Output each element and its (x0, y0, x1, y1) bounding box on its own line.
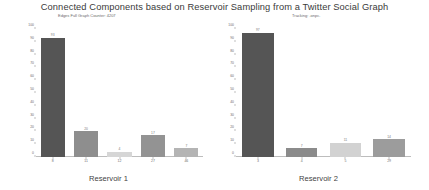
bar[interactable]: 7 (174, 148, 198, 157)
x-axis-tick-label: 11 (84, 159, 88, 163)
bar-slot: 2011 (69, 29, 102, 157)
bar-value-label: 11 (344, 138, 347, 142)
bar-group-left: 93820114121727746 (36, 29, 203, 157)
x-axis-tick-label: 5 (344, 159, 346, 163)
bar-slot: 1429 (367, 29, 411, 157)
bar-slot: 938 (36, 29, 69, 157)
bar-value-label: 7 (301, 144, 303, 148)
y-axis-tick-label: 20 (30, 125, 34, 129)
y-axis-tick-label: 10 (30, 138, 34, 142)
bar-value-label: 20 (84, 127, 88, 131)
bar-value-label: 4 (119, 147, 121, 151)
bar-value-label: 17 (151, 131, 155, 135)
x-axis-tick-label: 27 (151, 159, 155, 163)
x-axis-tick-label: 3 (257, 159, 259, 163)
bar-slot: 412 (103, 29, 136, 157)
y-axis-tick-label: 80 (230, 49, 234, 53)
bar-slot: 74 (280, 29, 324, 157)
y-axis-tick-label: 50 (30, 87, 34, 91)
x-axis-tick-label: 8 (52, 159, 54, 163)
y-axis-tick-label: 30 (30, 113, 34, 117)
y-axis-tick-label: 80 (30, 49, 34, 53)
x-axis-label-right: Reservoir 2 (214, 174, 423, 183)
y-axis-tick-label: 0 (32, 151, 34, 155)
y-axis-tick-label: 90 (30, 36, 34, 40)
x-axis-tick-label: 4 (301, 159, 303, 163)
y-axis-tick-label: 40 (30, 100, 34, 104)
y-axis-tick-label: 40 (230, 100, 234, 104)
bar[interactable]: 11 (330, 143, 362, 157)
y-axis-tick-label: 60 (30, 74, 34, 78)
bar[interactable]: 14 (373, 139, 405, 157)
x-axis-tick-label: 46 (184, 159, 188, 163)
bar-value-label: 97 (256, 28, 260, 32)
y-axis-tick-label: 20 (230, 125, 234, 129)
y-axis-tick-label: 100 (28, 23, 34, 27)
bar[interactable]: 7 (286, 148, 318, 157)
bar-slot: 115 (324, 29, 368, 157)
bar-slot: 973 (236, 29, 280, 157)
y-axis-tick-label: 50 (230, 87, 234, 91)
bar-value-label: 14 (387, 135, 391, 139)
bar-group-right: 973741151429 (236, 29, 411, 157)
figure-canvas: Connected Components based on Reservoir … (0, 0, 429, 190)
x-axis-tick-label: 29 (387, 159, 391, 163)
bar-value-label: 93 (51, 33, 55, 37)
chart-subtitle-left: Edges Full Graph Counter: 4207 (58, 13, 116, 18)
x-axis-label-left: Reservoir 1 (6, 174, 211, 183)
chart-panel-reservoir-1: Edges Full Graph Counter: 4207 100908070… (6, 13, 211, 173)
y-axis-tick-label: 30 (230, 113, 234, 117)
bar[interactable]: 17 (141, 135, 165, 157)
chart-panel-reservoir-2: Tracking: .onpc. 1009080706050403020100 … (214, 13, 423, 173)
page-title: Connected Components based on Reservoir … (0, 2, 429, 12)
plot-area-right: 1009080706050403020100 973741151429 (236, 29, 411, 157)
y-axis-tick-label: 100 (228, 23, 234, 27)
y-axis-tick-label: 60 (230, 74, 234, 78)
y-axis-tick-label: 70 (30, 61, 34, 65)
y-axis-tick-label: 90 (230, 36, 234, 40)
bar-slot: 746 (170, 29, 203, 157)
plot-area-left: 1009080706050403020100 93820114121727746 (36, 29, 203, 157)
x-axis-tick-label: 12 (118, 159, 122, 163)
chart-subtitle-right: Tracking: .onpc. (292, 13, 320, 18)
bar-slot: 1727 (136, 29, 169, 157)
bar[interactable]: 93 (41, 38, 65, 157)
y-axis-tick-label: 70 (230, 61, 234, 65)
bar[interactable]: 97 (242, 33, 274, 157)
y-axis-tick-label: 10 (230, 138, 234, 142)
bar-value-label: 7 (185, 144, 187, 148)
y-axis-tick-label: 0 (232, 151, 234, 155)
bar[interactable]: 20 (74, 131, 98, 157)
